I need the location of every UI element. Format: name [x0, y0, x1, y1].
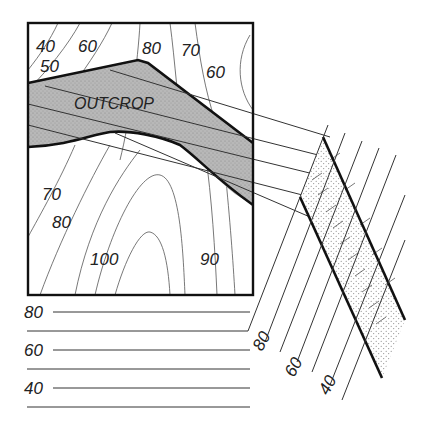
contour-label: 70 [181, 41, 200, 60]
contour-label: 50 [40, 57, 59, 76]
diagram-canvas: 40 60 50 80 70 60 70 80 100 90 OUTCROP 8… [0, 0, 426, 422]
contour-label: 70 [42, 185, 61, 204]
contour-label: 80 [142, 39, 161, 58]
contour-label: 60 [78, 37, 97, 56]
elevation-scale: 80 60 40 [24, 303, 250, 407]
contour-label: 60 [206, 63, 225, 82]
section-label: 60 [281, 354, 307, 380]
outcrop-label: OUTCROP [74, 95, 154, 112]
contour-label: 100 [90, 250, 119, 269]
geologic-diagram: 40 60 50 80 70 60 70 80 100 90 OUTCROP 8… [0, 0, 426, 422]
elevation-label: 80 [24, 303, 43, 322]
elevation-label: 40 [24, 379, 43, 398]
contour-label: 80 [52, 213, 71, 232]
contour-label: 40 [36, 37, 55, 56]
section-label: 80 [249, 328, 275, 354]
elevation-label: 60 [24, 341, 43, 360]
contour-label: 90 [200, 250, 219, 269]
section-label: 40 [315, 372, 341, 398]
